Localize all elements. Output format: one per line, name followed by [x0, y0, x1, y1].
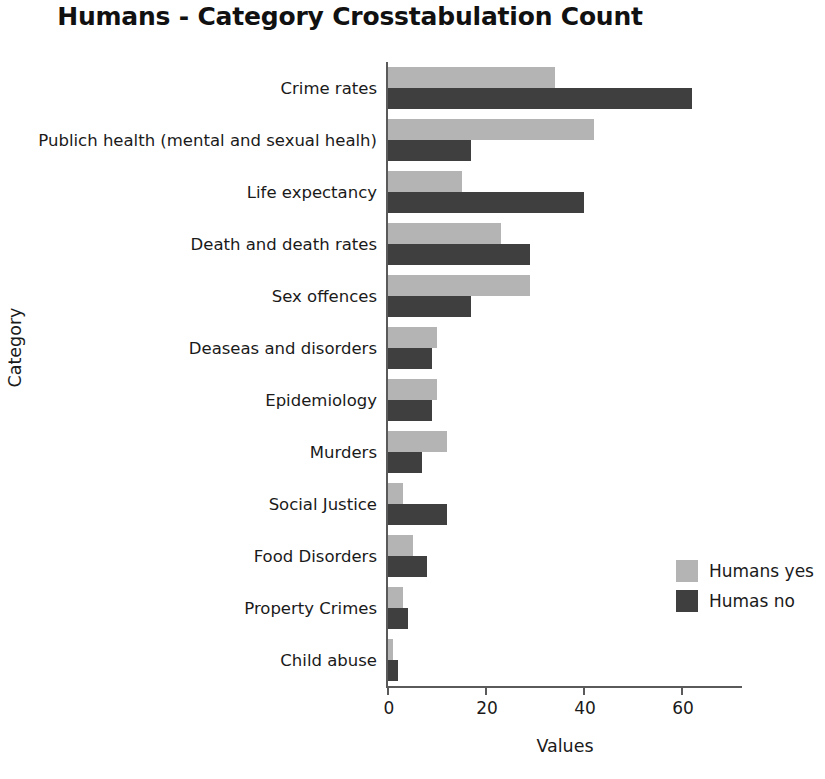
bar-group: Death and death rates: [388, 223, 742, 265]
x-axis-tick-mark: [583, 686, 585, 695]
bar-humans-yes: [388, 431, 447, 452]
page-title-emphasis: Humans: [57, 2, 170, 31]
bar-humans-no: [388, 244, 530, 265]
bar-group: Murders: [388, 431, 742, 473]
bar-humans-yes: [388, 171, 462, 192]
page-title: Humans - Category Crosstabulation Count: [0, 2, 700, 32]
x-axis-tick-label: 60: [653, 698, 713, 718]
page-title-rest: - Category Crosstabulation Count: [170, 2, 643, 31]
bar-humans-no: [388, 608, 408, 629]
category-tick-label: Sex offences: [0, 287, 377, 306]
legend-item[interactable]: Humans yes: [676, 556, 814, 586]
bar-humans-no: [388, 452, 422, 473]
x-axis-tick-mark: [387, 686, 389, 695]
category-tick-label: Life expectancy: [0, 183, 377, 202]
category-tick-label: Publich health (mental and sexual healh): [0, 131, 377, 150]
x-axis-tick-mark: [485, 686, 487, 695]
bar-humans-no: [388, 296, 471, 317]
legend-swatch-icon: [676, 590, 698, 612]
bar-humans-no: [388, 192, 584, 213]
category-tick-label: Crime rates: [0, 79, 377, 98]
bar-group: Publich health (mental and sexual healh): [388, 119, 742, 161]
bar-humans-no: [388, 660, 398, 681]
bar-group: Life expectancy: [388, 171, 742, 213]
legend-label: Humas no: [709, 591, 795, 611]
legend-label: Humans yes: [709, 561, 814, 581]
bar-humans-no: [388, 88, 692, 109]
bar-group: Social Justice: [388, 483, 742, 525]
x-axis-tick-label: 20: [457, 698, 517, 718]
category-tick-label: Social Justice: [0, 495, 377, 514]
category-tick-label: Death and death rates: [0, 235, 377, 254]
bar-humans-yes: [388, 67, 555, 88]
x-axis-tick-mark: [681, 686, 683, 695]
bar-humans-no: [388, 556, 427, 577]
category-tick-label: Food Disorders: [0, 547, 377, 566]
bar-humans-no: [388, 504, 447, 525]
category-tick-label: Child abuse: [0, 651, 377, 670]
bar-group: Sex offences: [388, 275, 742, 317]
category-tick-label: Deaseas and disorders: [0, 339, 377, 358]
bar-humans-yes: [388, 223, 501, 244]
legend-item[interactable]: Humas no: [676, 586, 814, 616]
legend: Humans yesHumas no: [676, 556, 814, 616]
category-tick-label: Property Crimes: [0, 599, 377, 618]
category-tick-label: Murders: [0, 443, 377, 462]
bar-humans-yes: [388, 639, 393, 660]
legend-swatch-icon: [676, 560, 698, 582]
bar-humans-yes: [388, 119, 594, 140]
bar-humans-yes: [388, 535, 413, 556]
x-axis-tick-label: 0: [359, 698, 419, 718]
bar-humans-no: [388, 400, 432, 421]
y-axis-title: Category: [5, 248, 26, 448]
bar-group: Child abuse: [388, 639, 742, 681]
bar-humans-yes: [388, 275, 530, 296]
bar-group: Epidemiology: [388, 379, 742, 421]
x-axis-title: Values: [388, 736, 742, 757]
x-axis-tick-label: 40: [555, 698, 615, 718]
bar-humans-no: [388, 140, 471, 161]
category-tick-label: Epidemiology: [0, 391, 377, 410]
x-axis-spine: [386, 686, 742, 688]
bar-humans-no: [388, 348, 432, 369]
bar-humans-yes: [388, 327, 437, 348]
bar-humans-yes: [388, 587, 403, 608]
bar-group: Deaseas and disorders: [388, 327, 742, 369]
bar-group: Crime rates: [388, 67, 742, 109]
bar-humans-yes: [388, 483, 403, 504]
bar-humans-yes: [388, 379, 437, 400]
